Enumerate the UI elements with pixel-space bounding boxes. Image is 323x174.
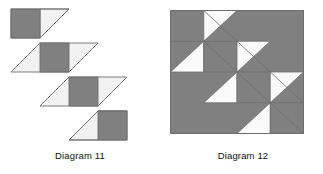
strip-3-dark-square bbox=[69, 77, 98, 106]
diagram-11-svg bbox=[0, 0, 160, 148]
strip-4 bbox=[69, 111, 127, 140]
strip-2 bbox=[11, 43, 98, 72]
strip-2-dark-square bbox=[40, 43, 69, 72]
diagram-11-caption: Diagram 11 bbox=[0, 150, 160, 161]
diagram-12-figure bbox=[170, 10, 304, 134]
strip-1-dark-square bbox=[11, 9, 40, 38]
diagram-12-caption: Diagram 12 bbox=[163, 150, 323, 161]
strip-4-dark-square bbox=[98, 111, 127, 140]
block-square-r0c0 bbox=[171, 11, 204, 42]
strip-3 bbox=[40, 77, 127, 106]
diagram-12-svg bbox=[170, 10, 304, 134]
strip-1 bbox=[11, 9, 69, 38]
diagram-11-figure bbox=[0, 0, 160, 148]
diagram-stage: Diagram 11 Diagram 12 bbox=[0, 0, 323, 174]
